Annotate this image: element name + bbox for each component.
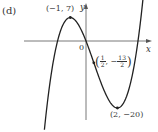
origin-label: 0 bbox=[79, 44, 84, 52]
y-axis-label: y bbox=[80, 3, 85, 12]
panel-label: (d) bbox=[2, 6, 16, 16]
separator: , − bbox=[106, 57, 118, 66]
x-axis-arrow-icon bbox=[146, 39, 152, 43]
local-max-label: (−1, 7) bbox=[46, 5, 74, 13]
local-max-point bbox=[69, 16, 72, 19]
y-fraction: 132 bbox=[117, 55, 127, 68]
inflection-label: (12, −132) bbox=[95, 55, 132, 68]
local-min-label: (2, −20) bbox=[110, 111, 143, 119]
x-axis-label: x bbox=[146, 45, 151, 54]
y-denominator: 2 bbox=[117, 62, 127, 68]
paren-close: ) bbox=[127, 55, 132, 69]
local-min-point bbox=[116, 107, 119, 110]
